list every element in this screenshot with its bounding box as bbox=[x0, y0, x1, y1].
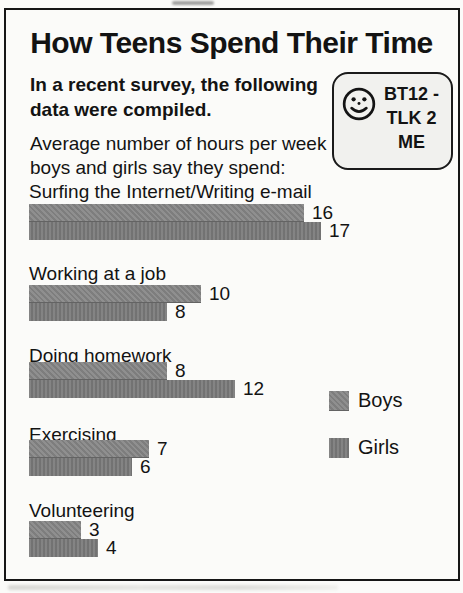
bar-row: 17 bbox=[29, 222, 350, 240]
bar-group: Working at a job108 bbox=[29, 263, 230, 321]
bar-row: 3 bbox=[29, 521, 135, 539]
bar-row: 10 bbox=[29, 285, 230, 303]
bar-girls bbox=[29, 303, 167, 321]
chart-legend: BoysGirls bbox=[329, 0, 459, 593]
bar-boys bbox=[29, 440, 149, 458]
category-label: Volunteering bbox=[29, 500, 135, 521]
bar-value: 3 bbox=[89, 521, 100, 539]
bar-boys bbox=[29, 362, 167, 380]
bar-row: 8 bbox=[29, 362, 264, 380]
scan-artifact-bottom bbox=[8, 585, 338, 590]
bar-group: Volunteering34 bbox=[29, 500, 135, 557]
bar-value: 6 bbox=[140, 458, 151, 476]
bar-row: 6 bbox=[29, 458, 168, 476]
bar-girls bbox=[29, 458, 132, 476]
bar-girls bbox=[29, 539, 98, 557]
bar-girls bbox=[29, 222, 321, 240]
bar-group: Surfing the Internet/Writing e-mail1617 bbox=[29, 181, 350, 240]
legend-item-girls: Girls bbox=[329, 436, 399, 459]
category-label: Surfing the Internet/Writing e-mail bbox=[29, 181, 350, 202]
bar-value: 12 bbox=[243, 380, 264, 398]
bar-row: 4 bbox=[29, 539, 135, 557]
bar-value: 10 bbox=[209, 285, 230, 303]
legend-label: Girls bbox=[358, 436, 399, 459]
legend-item-boys: Boys bbox=[329, 389, 402, 412]
bar-row: 12 bbox=[29, 380, 264, 398]
legend-swatch-icon bbox=[329, 438, 349, 458]
bar-value: 4 bbox=[106, 539, 117, 557]
scanned-chart-page: How Teens Spend Their Time In a recent s… bbox=[0, 0, 463, 593]
category-label: Working at a job bbox=[29, 263, 230, 284]
bar-value: 7 bbox=[157, 440, 168, 458]
bar-group: Doing homework812 bbox=[29, 345, 264, 398]
bar-value: 8 bbox=[175, 362, 186, 380]
bar-row: 8 bbox=[29, 303, 230, 321]
bar-group: Exercising76 bbox=[29, 424, 168, 476]
bar-boys bbox=[29, 521, 81, 539]
bar-value: 8 bbox=[175, 303, 186, 321]
legend-label: Boys bbox=[358, 389, 402, 412]
bar-boys bbox=[29, 204, 304, 222]
bar-row: 16 bbox=[29, 204, 350, 222]
legend-swatch-icon bbox=[329, 391, 349, 411]
bar-girls bbox=[29, 380, 235, 398]
